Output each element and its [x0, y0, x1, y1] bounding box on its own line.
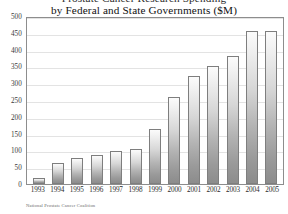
bar-series [27, 18, 283, 184]
x-axis-tick-label-1998: 1998 [126, 186, 146, 198]
y-axis-tick-label: 100 [11, 147, 22, 155]
bar-1997[interactable] [110, 151, 122, 184]
source-note: National Prostate Cancer Coalition [26, 203, 95, 208]
x-axis-tick-label-1999: 1999 [145, 186, 165, 198]
bar-slot [242, 18, 261, 184]
bar-slot [107, 18, 126, 184]
y-axis-tick-label: 0 [18, 181, 22, 189]
bar-2005[interactable] [265, 31, 277, 184]
y-axis-tick-label: 250 [11, 97, 22, 105]
x-axis-tick-label-2002: 2002 [204, 186, 224, 198]
x-axis-tick-label-2000: 2000 [165, 186, 185, 198]
bar-2000[interactable] [168, 97, 180, 184]
x-axis-tick-label-1994: 1994 [48, 186, 68, 198]
y-axis-tick-label: 150 [11, 131, 22, 139]
bar-2004[interactable] [246, 31, 258, 184]
chart-title: Prostate Cancer Research Spending by Fed… [0, 0, 288, 16]
plot-area [26, 17, 284, 185]
x-axis-tick-label-1995: 1995 [67, 186, 87, 198]
y-axis-tick-label: 200 [11, 114, 22, 122]
x-axis-tick-label-1997: 1997 [106, 186, 126, 198]
bar-slot [87, 18, 106, 184]
bar-slot [48, 18, 67, 184]
bar-slot [184, 18, 203, 184]
chart-title-line-1: Prostate Cancer Research Spending [0, 0, 288, 5]
bar-2003[interactable] [227, 56, 239, 184]
x-axis: 1993199419951996199719981999200020012002… [26, 186, 284, 198]
bar-slot [204, 18, 223, 184]
chart-title-line-2: by Federal and State Governments ($M) [0, 5, 288, 17]
y-axis: 050100150200250300350400450500 [0, 17, 24, 185]
bar-2001[interactable] [188, 76, 200, 184]
bar-slot [29, 18, 48, 184]
y-axis-tick-label: 300 [11, 80, 22, 88]
bar-1996[interactable] [91, 155, 103, 184]
x-axis-tick-label-1993: 1993 [28, 186, 48, 198]
y-axis-tick-label: 500 [11, 13, 22, 21]
bar-slot [223, 18, 242, 184]
bar-1998[interactable] [130, 149, 142, 184]
x-axis-tick-label-2003: 2003 [223, 186, 243, 198]
x-axis-tick-label-2001: 2001 [184, 186, 204, 198]
bar-1994[interactable] [52, 163, 64, 184]
bar-1999[interactable] [149, 129, 161, 184]
y-axis-tick-label: 350 [11, 63, 22, 71]
bar-slot [126, 18, 145, 184]
bar-2002[interactable] [207, 66, 219, 184]
y-axis-tick-label: 450 [11, 30, 22, 38]
bar-slot [68, 18, 87, 184]
x-axis-tick-label-2004: 2004 [243, 186, 263, 198]
bar-1993[interactable] [33, 178, 45, 184]
chart-container: Prostate Cancer Research Spending by Fed… [0, 0, 288, 214]
x-axis-tick-label-1996: 1996 [87, 186, 107, 198]
y-axis-tick-label: 50 [15, 164, 22, 172]
bar-slot [262, 18, 281, 184]
bar-1995[interactable] [71, 158, 83, 184]
y-axis-tick-label: 400 [11, 47, 22, 55]
x-axis-tick-label-2005: 2005 [262, 186, 282, 198]
bar-slot [145, 18, 164, 184]
bar-slot [165, 18, 184, 184]
